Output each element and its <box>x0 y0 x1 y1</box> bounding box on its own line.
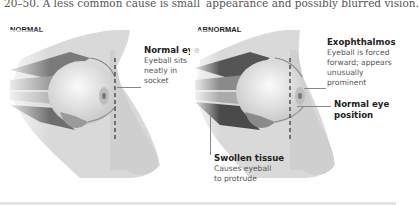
bottom-divider <box>0 202 396 205</box>
callout-normal-eye-position: Normal eye position <box>334 99 389 121</box>
callout-swollen-tissue: Swollen tissue Causes eyeball to protrud… <box>214 153 284 184</box>
leader-line-exophthalmos <box>304 88 326 89</box>
leader-line-swollen-tissue <box>210 115 211 155</box>
body-text-left: 20–50. A less common cause is small <box>4 0 200 9</box>
leader-line-normal-eye-position <box>297 106 331 107</box>
callout-exophthalmos: Exophthalmos Eyeball is forced forward; … <box>327 37 396 88</box>
body-text-right: appearance and possibly blurred vision. <box>206 0 419 9</box>
leader-line-normal-eye <box>117 87 141 88</box>
